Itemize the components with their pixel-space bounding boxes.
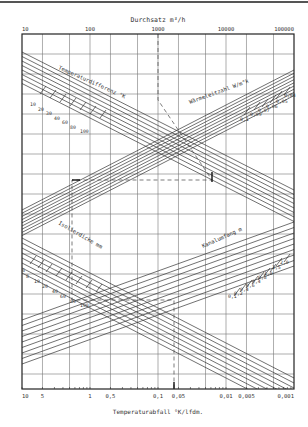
bottom-tick-label: 0,05 (172, 393, 185, 399)
bottom-axis-title: Temperaturabfall °K/lfdm. (113, 408, 203, 416)
bottom-tick-label: 0,005 (238, 393, 255, 399)
family-value-label: 20 (38, 107, 44, 112)
bottom-tick-label: 10 (22, 393, 29, 399)
family-value-label: 1,5 (272, 265, 281, 270)
top-tick-label: 10 (22, 26, 29, 32)
family-value-label: 0,06 (266, 104, 278, 109)
top-axis-ticks: 10100100010000100000 (22, 26, 294, 32)
family-value-label: 80 (70, 299, 76, 304)
isolierdicke-label: Isolierdicke mm (58, 220, 105, 250)
family-value-label: 1,0 (264, 271, 273, 276)
family-value-label: 20 (42, 284, 48, 289)
family-value-label: 40 (54, 116, 60, 121)
bottom-tick-label: 0,5 (106, 393, 116, 399)
family-value-label: 80 (70, 125, 76, 130)
family-value-label: 10 (34, 279, 40, 284)
bottom-tick-label: 5 (41, 393, 44, 399)
family-value-label: 10 (30, 102, 36, 107)
family-value-label: 60 (62, 120, 68, 125)
bottom-tick-label: 0,001 (277, 393, 294, 399)
nomogram-chart: Durchsatz m³/h 10100100010000100000 1051… (0, 0, 308, 427)
temperaturdifferenz-label: Temperaturdifferenz °K (57, 64, 127, 100)
kanalumfang-label: Kanalumfang m (201, 226, 244, 250)
family-value-label: 2,0 (280, 260, 289, 265)
top-axis-title: Durchsatz m³/h (131, 16, 186, 24)
family-value-labels: 1020304060801000,10,090,070,060,050,0468… (22, 93, 296, 308)
family-value-label: 0,04 (284, 93, 296, 98)
bottom-tick-label: 0,1 (153, 393, 163, 399)
family-value-label: 100 (80, 303, 89, 308)
family-value-label: 6 (22, 268, 25, 273)
example-path (72, 34, 212, 389)
family-value-label: 60 (60, 294, 66, 299)
top-tick-label: 1000 (151, 26, 164, 32)
top-tick-label: 100 (85, 26, 95, 32)
family-value-label: 0,1 (240, 117, 249, 122)
family-value-label: 40 (52, 289, 58, 294)
top-tick-label: 10000 (218, 26, 235, 32)
bottom-tick-label: 0,01 (219, 393, 232, 399)
bottom-tick-label: 1 (88, 393, 91, 399)
family-value-label: 8 (26, 274, 29, 279)
family-value-label: 30 (46, 111, 52, 116)
family-value-label: 0,05 (276, 99, 288, 104)
top-tick-label: 100000 (274, 26, 294, 32)
family-value-label: 100 (80, 129, 89, 134)
